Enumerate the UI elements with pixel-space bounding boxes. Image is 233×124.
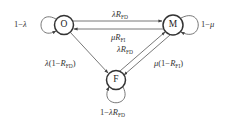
label-m-to-o-sub: FI: [120, 37, 125, 43]
label-o-to-m: λRFD: [112, 10, 128, 21]
label-self-o-var: λ: [23, 19, 27, 29]
label-self-m: 1−μ: [201, 20, 214, 29]
label-self-o: 1−λ: [14, 20, 27, 29]
label-m-to-o: μRFI: [111, 33, 125, 44]
node-f-label: F: [111, 75, 121, 85]
label-o-to-f-open: (1−: [49, 58, 61, 68]
label-self-f: 1−λRFD: [100, 108, 125, 119]
label-f-to-m-sub: FD: [126, 49, 133, 55]
label-o-to-f-sub: FD: [66, 63, 73, 69]
label-self-f-sub: FD: [118, 112, 125, 118]
label-self-f-pre: 1−: [100, 107, 109, 117]
label-o-to-f-close: ): [73, 58, 76, 68]
label-m-to-f-open: (1−: [158, 58, 170, 68]
label-f-to-m: λRFD: [117, 45, 133, 56]
label-self-m-pre: 1−: [201, 19, 210, 29]
node-o-label: O: [59, 20, 69, 30]
label-self-o-pre: 1−: [14, 19, 23, 29]
node-m-label: M: [167, 20, 179, 30]
label-o-to-m-sub: FD: [121, 14, 128, 20]
label-o-to-f: λ(1−RFD): [45, 59, 76, 70]
label-m-to-f: μ(1−RFI): [154, 59, 183, 70]
label-self-m-var: μ: [210, 19, 214, 29]
label-m-to-f-close: ): [180, 58, 183, 68]
